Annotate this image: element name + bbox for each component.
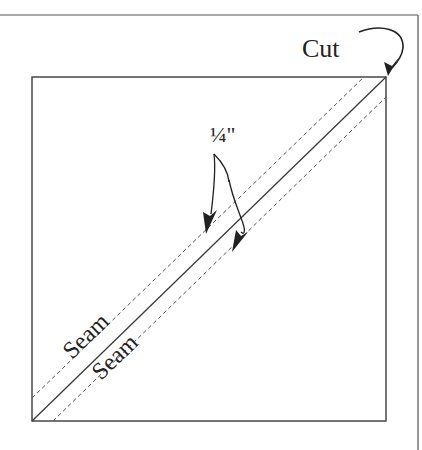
cut-arrow-icon <box>359 28 403 76</box>
outer-frame <box>0 15 418 450</box>
diagram-canvas: Cut ¼" Seam Seam <box>0 0 422 450</box>
seam-allowance-label: ¼" <box>210 122 235 147</box>
cut-label: Cut <box>302 34 340 63</box>
cut-line <box>32 77 386 421</box>
seam-allowance-arrow-icon <box>203 154 248 252</box>
